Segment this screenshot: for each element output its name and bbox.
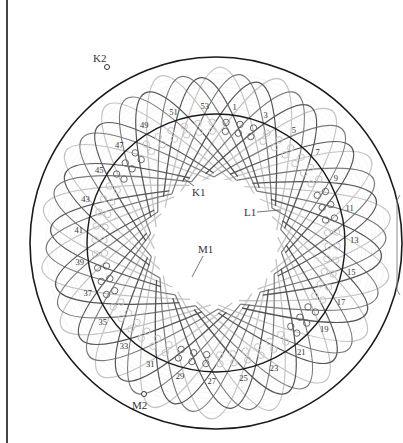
slot-number-15: 15: [347, 267, 356, 277]
slot-number-41: 41: [75, 225, 84, 235]
slot-number-37: 37: [84, 288, 93, 298]
slot-number-23: 23: [270, 363, 279, 373]
slot-number-51: 51: [169, 107, 178, 117]
slot-number-17: 17: [337, 297, 346, 307]
slot-number-27: 27: [207, 376, 216, 386]
slot-marker: [292, 160, 298, 166]
slot-number-39: 39: [75, 257, 84, 267]
slot-number-43: 43: [81, 194, 90, 204]
hub-opening: [160, 179, 272, 291]
slot-number-11: 11: [346, 203, 354, 213]
terminal-label-k2: K2: [93, 52, 106, 64]
slot-marker: [138, 335, 144, 341]
slot-number-29: 29: [176, 371, 185, 381]
terminal-label-k1: K1: [192, 186, 205, 198]
slot-number-1: 1: [233, 102, 237, 112]
coil-group-dark: [51, 78, 382, 409]
winding-diagram-canvas: 1357911131517192123252729313335373941434…: [0, 0, 403, 443]
slot-marker: [134, 319, 140, 325]
slot-number-49: 49: [140, 120, 149, 130]
slot-number-7: 7: [316, 147, 320, 157]
slot-number-3: 3: [264, 110, 268, 120]
slot-number-35: 35: [99, 317, 108, 327]
slot-number-53: 53: [201, 101, 210, 111]
slot-number-45: 45: [95, 165, 104, 175]
terminal-label-l1: L1: [244, 206, 256, 218]
terminal-label-m2: M2: [132, 399, 147, 411]
slot-marker: [288, 145, 294, 151]
slot-number-5: 5: [292, 125, 296, 135]
terminal-m2-marker: [142, 392, 147, 397]
slot-number-9: 9: [334, 173, 338, 183]
slot-number-31: 31: [146, 359, 155, 369]
winding-diagram: 1357911131517192123252729313335373941434…: [0, 0, 403, 443]
slot-number-33: 33: [120, 341, 129, 351]
terminal-label-m1: M1: [198, 243, 213, 255]
page-margin-rule: [6, 0, 8, 443]
slot-number-13: 13: [350, 235, 359, 245]
slot-number-47: 47: [115, 140, 124, 150]
slot-number-21: 21: [297, 347, 306, 357]
slot-number-25: 25: [239, 373, 248, 383]
slot-number-19: 19: [320, 324, 329, 334]
terminal-k2-marker: [105, 65, 110, 70]
